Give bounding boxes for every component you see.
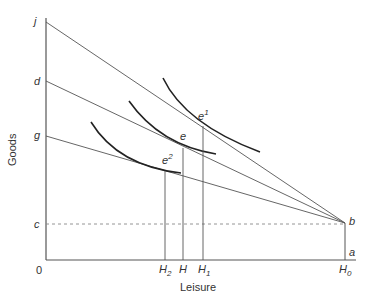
label-e1: e1 [198, 108, 209, 122]
label-a: a [349, 246, 355, 258]
label-d: d [34, 75, 41, 87]
label-e: e [180, 130, 186, 142]
indifference-curve-e1 [163, 78, 260, 152]
x-axis-title: Leisure [180, 281, 216, 293]
label-origin: 0 [36, 264, 42, 276]
label-H0: H0 [339, 263, 352, 278]
labor-leisure-diagram: j d g c 0 b a e e1 e2 H2 H H1 H0 Leisure… [0, 0, 367, 302]
label-H: H [179, 263, 187, 275]
label-b: b [349, 215, 355, 227]
label-g: g [34, 129, 41, 141]
label-c: c [34, 218, 40, 230]
budget-line-d [46, 81, 345, 223]
label-H2: H2 [159, 263, 172, 278]
label-e2: e2 [162, 152, 173, 166]
label-j: j [32, 15, 37, 27]
label-H1: H1 [198, 263, 210, 278]
y-axis-title: Goods [6, 133, 18, 166]
